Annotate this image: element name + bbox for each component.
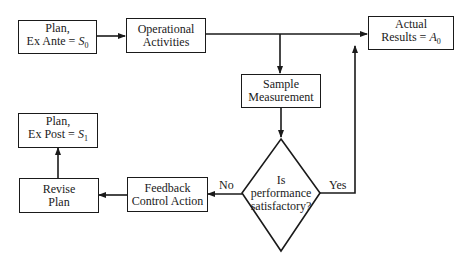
operational-activities-box: Operational Activities xyxy=(126,18,206,53)
operational-activities-line2: Activities xyxy=(143,36,190,49)
decision-diamond-text: Is performance satisfactory? xyxy=(246,174,316,213)
revise-plan-line2: Plan xyxy=(48,196,69,209)
plan-ex-post-line2: Ex Post = S1 xyxy=(28,128,88,145)
revise-plan-line1: Revise xyxy=(43,183,76,196)
revise-plan-box: Revise Plan xyxy=(19,178,99,213)
actual-results-box: Actual Results = A0 xyxy=(368,16,454,50)
feedback-control-line1: Feedback xyxy=(145,182,191,195)
plan-ex-post-box: Plan, Ex Post = S1 xyxy=(18,113,98,148)
sample-measurement-box: Sample Measurement xyxy=(241,74,321,108)
actual-results-line2: Results = A0 xyxy=(381,31,440,48)
plan-ex-ante-line2: Ex Ante = S0 xyxy=(27,35,89,52)
operational-activities-line1: Operational xyxy=(138,23,195,36)
yes-edge-label: Yes xyxy=(329,179,346,192)
sample-measurement-line2: Measurement xyxy=(248,91,313,104)
plan-ex-ante-box: Plan, Ex Ante = S0 xyxy=(18,20,97,54)
feedback-control-box: Feedback Control Action xyxy=(127,177,208,212)
feedback-control-line2: Control Action xyxy=(132,195,204,208)
no-edge-label: No xyxy=(219,179,234,192)
